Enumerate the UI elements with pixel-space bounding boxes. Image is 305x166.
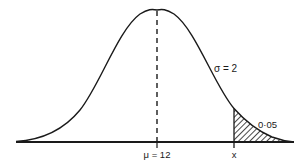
mean-label: μ = 12 <box>144 149 171 160</box>
tail-area-label: 0·05 <box>258 119 277 130</box>
bell-curve <box>16 9 294 142</box>
x-value-label: x <box>232 149 237 160</box>
normal-curve-diagram: σ = 2 0·05 μ = 12 x <box>0 0 305 166</box>
sigma-label: σ = 2 <box>214 63 238 74</box>
